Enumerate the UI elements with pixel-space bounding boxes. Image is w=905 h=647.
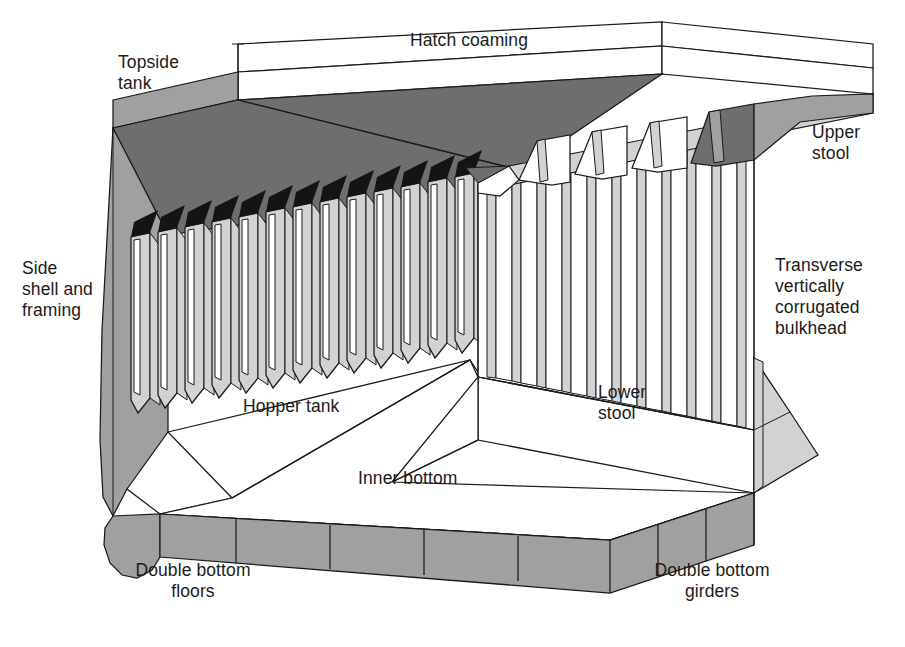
side-frame (347, 170, 376, 373)
side-frame (428, 155, 457, 358)
diagram-canvas: .ln { stroke:#1a1a1a; stroke-width:1.25;… (0, 0, 905, 647)
ship-hold-cutaway-diagram: .ln { stroke:#1a1a1a; stroke-width:1.25;… (0, 0, 905, 647)
label-inner-bottom: Inner bottom (358, 468, 457, 489)
side-frame (374, 165, 403, 368)
side-frame (158, 205, 187, 408)
side-frame (293, 180, 322, 383)
side-frame (266, 185, 295, 388)
label-hatch-coaming: Hatch coaming (410, 30, 528, 51)
label-lower-stool: Lower stool (598, 382, 646, 424)
right-haunch-face (754, 358, 763, 493)
label-transverse-corrugated-bulkhead: Transverse vertically corrugated bulkhea… (775, 255, 863, 339)
side-frame (212, 195, 241, 398)
side-frame (320, 175, 349, 378)
label-side-shell-and-framing: Side shell and framing (22, 258, 93, 321)
label-upper-stool: Upper stool (812, 122, 860, 164)
label-topside-tank: Topside tank (118, 52, 179, 94)
side-frame (239, 190, 268, 393)
label-double-bottom-girders: Double bottom girders (637, 560, 787, 602)
right-haunch-group (754, 358, 818, 493)
label-hopper-tank: Hopper tank (243, 396, 339, 417)
side-frame (185, 200, 214, 403)
side-frame (401, 160, 430, 363)
side-frame (131, 210, 160, 413)
label-double-bottom-floors: Double bottom floors (118, 560, 268, 602)
